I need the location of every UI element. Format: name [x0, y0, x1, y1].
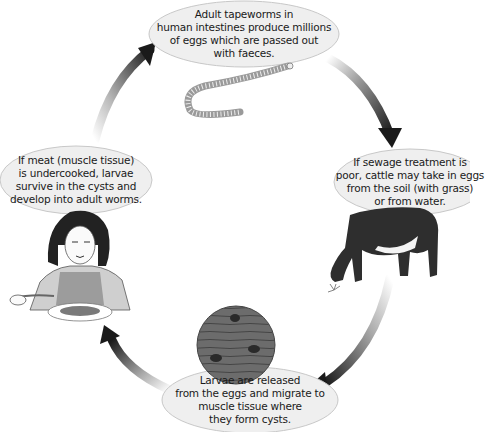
stage-adult-text: Adult tapeworms in human intestines prod… [149, 3, 339, 65]
cyst [230, 314, 240, 322]
tapeworm-illustration [188, 63, 293, 115]
cyst [210, 354, 222, 362]
stage-human-text: If meat (muscle tissue) is undercooked, … [0, 148, 152, 212]
woman-eating-illustration [10, 211, 130, 321]
arrow-larvae-to-human [100, 325, 170, 390]
cyst [248, 345, 260, 353]
arrow-adult-to-cattle [328, 58, 402, 148]
stage-cattle-text: If sewage treatment is poor, cattle may … [334, 150, 486, 214]
stage-larvae-text: Larvae are released from the eggs and mi… [162, 368, 338, 432]
arrow-human-to-adult [95, 42, 156, 140]
cow-illustration [328, 207, 438, 292]
